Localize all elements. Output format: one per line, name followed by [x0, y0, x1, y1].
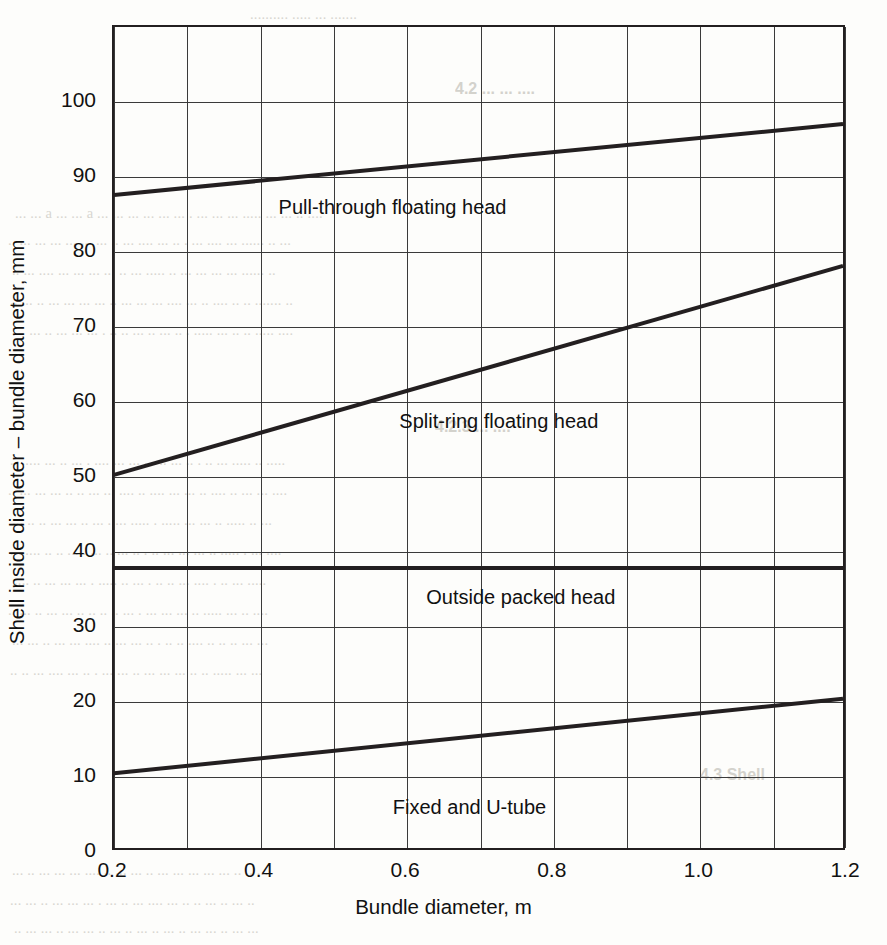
plot-area: Pull-through floating headSplit-ring flo…: [112, 25, 845, 850]
x-tick-label: 0.2: [97, 858, 126, 882]
series-line: [114, 266, 843, 475]
gridline-vertical: [845, 27, 846, 848]
series-line: [114, 699, 843, 774]
x-tick-label: 1.0: [684, 858, 713, 882]
chart-figure: .......... ..... ... ....... 4.2 ... ...…: [0, 0, 887, 945]
x-tick-label: 0.6: [391, 858, 420, 882]
series-label: Split-ring floating head: [399, 409, 598, 432]
data-series-lines: [114, 27, 843, 848]
series-line: [114, 124, 843, 195]
series-label: Fixed and U-tube: [393, 796, 546, 819]
x-tick-label: 0.8: [537, 858, 566, 882]
series-label: Outside packed head: [426, 586, 615, 609]
series-label: Pull-through floating head: [279, 196, 507, 219]
x-axis-title: Bundle diameter, m: [0, 895, 887, 919]
x-tick-label: 0.4: [244, 858, 273, 882]
x-tick-label: 1.2: [830, 858, 859, 882]
